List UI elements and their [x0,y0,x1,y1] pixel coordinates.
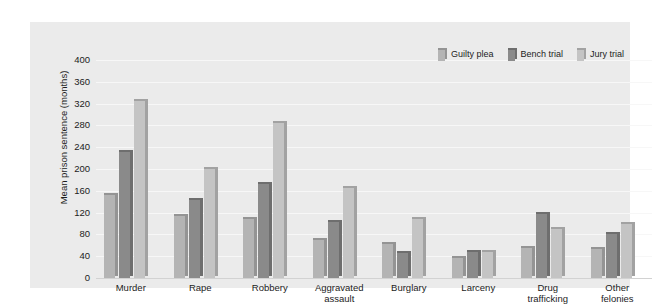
legend-item-bench-trial[interactable]: Bench trial [508,48,564,61]
bar-face [273,123,284,278]
bar-face [382,244,393,278]
bars-row [583,60,653,278]
bar-top-side [393,242,396,244]
bar-top [328,220,339,222]
bar-top [134,99,145,101]
bar-top-side [493,250,496,252]
bar-group [583,60,653,278]
bar-face [104,195,115,278]
bar-face [258,184,269,278]
bar-side [254,217,257,276]
bar-top [591,247,602,249]
bar[interactable] [536,214,549,278]
x-tick-label: Robbery [235,282,305,304]
bar-group [235,60,305,278]
bar-side [423,217,426,276]
bar-face [591,249,602,278]
bar-top-side [562,227,565,229]
bar-side [145,99,148,276]
bar[interactable] [313,240,326,278]
legend-swatch-icon [508,48,517,61]
bar-face [536,214,547,278]
bar-top [258,182,269,184]
legend-swatch-icon [438,48,447,61]
y-tick-label: 240 [60,142,90,152]
bar[interactable] [343,188,356,278]
bar-side [547,212,550,276]
bar-top [621,222,632,224]
x-tick-label: Burglary [374,282,444,304]
bar[interactable] [591,249,604,278]
bar-side [185,214,188,276]
bar[interactable] [243,219,256,278]
bar-top [119,150,130,152]
bar-top-side [632,222,635,224]
bar-top-side [254,217,257,219]
bar[interactable] [521,248,534,278]
bar-group [513,60,583,278]
y-tick-label: 280 [60,120,90,130]
bar-top-side [463,256,466,258]
bar[interactable] [258,184,271,278]
bar[interactable] [328,222,341,278]
legend-item-jury-trial[interactable]: Jury trial [577,48,624,61]
bar[interactable] [467,252,480,278]
bar-group [96,60,166,278]
bar-top [189,198,200,200]
y-tick-label: 200 [60,164,90,174]
bar[interactable] [397,253,410,278]
bar-top-side [423,217,426,219]
bar-face [189,200,200,278]
y-tick-label: 40 [60,251,90,261]
bar-top [536,212,547,214]
bar[interactable] [104,195,117,278]
bar-top-side [354,186,357,188]
bar[interactable] [412,219,425,278]
bar-top-side [200,198,203,200]
bars-row [374,60,444,278]
bar-top [397,251,408,253]
bar[interactable] [119,152,132,278]
axis-baseline [96,278,652,279]
bar[interactable] [189,200,202,278]
bar[interactable] [204,169,217,278]
bar-side [408,251,411,276]
chart-plot-panel: Guilty pleaBench trialJury trial Mean pr… [30,22,630,288]
bar-side [632,222,635,277]
bar-face [243,219,254,278]
bar[interactable] [273,123,286,278]
legend-label: Guilty plea [451,49,494,59]
bar[interactable] [482,252,495,278]
bar-face [119,152,130,278]
bar[interactable] [382,244,395,278]
bar-top [104,193,115,195]
x-tick-label: Drug trafficking [513,282,583,304]
bar-side [269,182,272,276]
bar-side [478,250,481,276]
bar-side [200,198,203,276]
bar-side [562,227,565,276]
bars-row [444,60,514,278]
bar-top [521,246,532,248]
bar-top-side [324,238,327,240]
bar[interactable] [551,229,564,278]
bar-side [532,246,535,276]
bar-top [174,214,185,216]
bar-top [273,121,284,123]
bar[interactable] [452,258,465,278]
bar[interactable] [134,101,147,278]
bar-top-side [130,150,133,152]
bar-top-side [185,214,188,216]
bar[interactable] [621,224,634,279]
bar-face [521,248,532,278]
legend-label: Bench trial [521,49,564,59]
y-tick-label: 400 [60,55,90,65]
bar[interactable] [174,216,187,278]
plot-area [96,60,652,278]
bar-side [493,250,496,276]
bar-side [284,121,287,276]
bar-top [606,232,617,234]
legend-item-guilty-plea[interactable]: Guilty plea [438,48,494,61]
bar[interactable] [606,234,619,278]
bar-top [382,242,393,244]
